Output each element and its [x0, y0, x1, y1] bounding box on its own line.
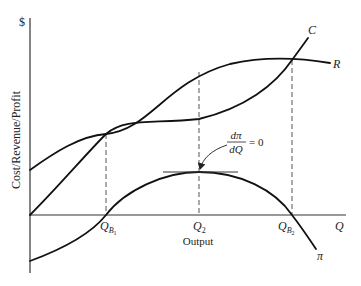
cost-curve: [30, 38, 308, 215]
annotation-denominator: dQ: [229, 143, 243, 155]
derivative-annotation: dπ dQ = 0: [227, 129, 264, 155]
q2-label: Q2: [193, 219, 206, 235]
profit-curve: [30, 172, 316, 261]
qb2-label: QB2: [278, 219, 295, 236]
revenue-curve-label: R: [332, 57, 341, 71]
profit-curve-label: π: [317, 249, 324, 263]
x-axis-end-label: Q: [335, 219, 344, 233]
annotation-arrow-icon: [200, 145, 227, 169]
revenue-curve: [30, 59, 330, 170]
economics-diagram: $ Cost/Revenue/Profit dπ dQ = 0 C R π QB…: [0, 0, 361, 286]
annotation-numerator: dπ: [230, 129, 242, 141]
y-axis-unit-label: $: [19, 15, 25, 29]
cost-curve-label: C: [308, 23, 317, 37]
y-axis-label: Cost/Revenue/Profit: [9, 90, 23, 189]
annotation-rhs: = 0: [249, 136, 264, 148]
qb1-label: QB1: [100, 219, 117, 236]
x-axis-label: Output: [183, 235, 214, 247]
